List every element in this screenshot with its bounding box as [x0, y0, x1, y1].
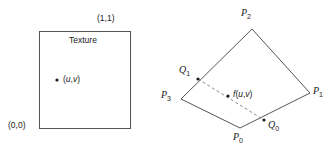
vertex-label-p3: P3: [161, 90, 171, 102]
texture-sample-dot: [55, 78, 58, 81]
edge-point-subscript-q1: 1: [186, 70, 190, 77]
texture-sample-label: (u,v): [63, 75, 80, 84]
interp-paren-close: ): [250, 89, 253, 99]
vertex-label-p1: P1: [313, 86, 323, 98]
edge-point-subscript-q0: 0: [275, 125, 279, 132]
texture-square: [40, 32, 131, 129]
vertex-subscript-p0: 0: [239, 137, 243, 144]
interpolated-point-dot: [226, 94, 229, 97]
texture-corner-bottom-left: (0,0): [8, 121, 25, 130]
texture-corner-top-right: (1,1): [97, 14, 114, 23]
texture-sample-paren-close: ): [77, 74, 80, 84]
interpolation-dashed-line: [198, 79, 264, 120]
vertex-label-p0: P0: [233, 132, 243, 144]
edge-point-q0-dot: [262, 118, 265, 121]
vertex-subscript-p1: 1: [319, 91, 323, 98]
edge-point-q1-dot: [196, 77, 199, 80]
vertex-subscript-p3: 3: [167, 95, 171, 102]
vertex-label-p2: P2: [241, 8, 251, 20]
texture-title: Texture: [69, 36, 97, 45]
edge-point-label-q0: Q0: [268, 120, 279, 132]
quadrilateral-outline: [181, 29, 310, 128]
interpolated-point-label: f(u,v): [233, 90, 252, 99]
texture-mapping-figure: Texture (1,1) (0,0) (u,v) P2 P1 P0 P3 Q1…: [0, 0, 332, 154]
edge-point-label-q1: Q1: [179, 65, 190, 77]
figure-vector-layer: [0, 0, 332, 154]
vertex-subscript-p2: 2: [247, 13, 251, 20]
